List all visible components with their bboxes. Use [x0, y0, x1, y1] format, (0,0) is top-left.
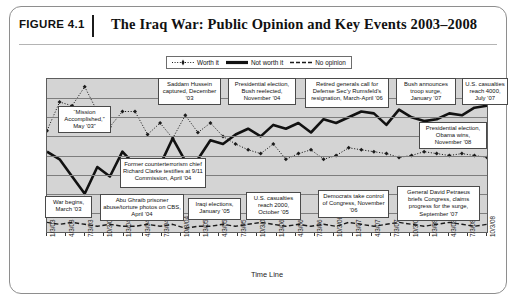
- x-tick-label: 4/3/05: [221, 219, 228, 237]
- x-tick-mark: [256, 233, 257, 236]
- page-title: The Iraq War: Public Opinion and Key Eve…: [111, 16, 477, 33]
- gridline: [47, 117, 487, 118]
- chart-legend: Worth it Not worth it No opinion: [166, 56, 352, 69]
- x-tick-mark: [142, 233, 143, 236]
- x-tick-mark: [409, 233, 410, 236]
- x-tick-mark: [467, 233, 468, 236]
- x-tick-label: 4/3/07: [374, 219, 381, 237]
- x-tick-mark: [276, 233, 277, 236]
- x-tick-label: 7/3/04: [163, 219, 170, 237]
- x-tick-mark: [314, 233, 315, 236]
- figure-screenshot: FIGURE 4.1 The Iraq War: Public Opinion …: [0, 0, 516, 301]
- header-rule: [19, 44, 497, 45]
- x-tick-mark: [429, 233, 430, 236]
- x-tick-mark: [161, 233, 162, 236]
- series-marker: [422, 150, 426, 154]
- annotation-iraqi-elections: Iraqi elections, January ’05: [188, 198, 241, 220]
- x-tick-label: 1/3/03: [49, 219, 56, 237]
- x-tick-mark: [65, 233, 66, 236]
- annotation-casualties-2000: U.S. casualties reach 2000, October ’05: [246, 192, 301, 220]
- x-tick-mark: [199, 233, 200, 236]
- x-tick-label: 4/3/08: [450, 219, 457, 237]
- series-marker: [246, 148, 250, 152]
- legend-swatch-dashed: [290, 59, 312, 66]
- annotation-rumsfeld-resignation: Retired generals call for Defense Sec’y …: [305, 78, 389, 108]
- figure-header: FIGURE 4.1 The Iraq War: Public Opinion …: [19, 14, 497, 42]
- x-tick-label: 4/3/04: [144, 219, 151, 237]
- series-marker: [359, 148, 363, 152]
- x-tick-mark: [103, 233, 104, 236]
- series-marker: [372, 150, 376, 154]
- x-tick-mark: [237, 233, 238, 236]
- x-tick-label: 7/3/08: [469, 219, 476, 237]
- x-tick-label: 7/3/03: [87, 219, 94, 237]
- series-marker: [347, 146, 351, 150]
- annotation-abu-ghraib: Abu Ghraib prisoner abuse/torture photos…: [100, 194, 184, 221]
- x-tick-label: 1/3/08: [431, 219, 438, 237]
- annotation-troop-surge: Bush announces troop surge, January ’07: [396, 78, 456, 105]
- series-marker: [133, 110, 137, 114]
- x-tick-mark: [218, 233, 219, 236]
- x-tick-label: 1/3/07: [355, 219, 362, 237]
- x-tick-mark: [333, 233, 334, 236]
- x-tick-mark: [295, 233, 296, 236]
- header-divider: [92, 15, 94, 37]
- annotation-mission-accomplished: “Mission Accomplished,” May ’03”: [58, 106, 111, 133]
- series-marker: [58, 100, 62, 104]
- x-tick-label: 7/3/07: [393, 219, 400, 237]
- x-tick-label: 7/3/05: [240, 219, 247, 237]
- x-tick-label: 10/3/06: [336, 216, 343, 237]
- legend-swatch-dotted-marker: [172, 59, 194, 66]
- legend-item-not-worth-it: Not worth it: [226, 59, 283, 66]
- x-tick-mark: [46, 233, 47, 236]
- x-axis-label: Time Line: [46, 270, 488, 279]
- annotation-presidential-election-2004: Presidential election, Bush reelected, N…: [228, 78, 296, 105]
- legend-swatch-thick-solid: [226, 59, 248, 66]
- legend-item-worth-it: Worth it: [172, 59, 219, 66]
- gridline: [47, 156, 487, 157]
- x-tick-label: 4/3/06: [297, 219, 304, 237]
- x-tick-mark: [390, 233, 391, 236]
- annotation-casualties-4000: U.S. casualties reach 4000, July ’07: [462, 78, 508, 105]
- x-tick-label: 1/3/04: [125, 219, 132, 237]
- x-tick-label: 4/3/03: [68, 219, 75, 237]
- x-tick-mark: [123, 233, 124, 236]
- legend-label-no-opinion: No opinion: [315, 59, 346, 66]
- y-axis-ticks: 01020304050607080: [0, 0, 46, 301]
- x-tick-label: 7/3/06: [316, 219, 323, 237]
- x-tick-mark: [352, 233, 353, 236]
- x-tick-label: 1/3/06: [278, 219, 285, 237]
- series-line-not-worth-it: [47, 106, 487, 194]
- annotation-obama-wins: Presidential election, Obama wins, Novem…: [419, 122, 487, 149]
- annotation-war-begins: War begins, March ’03: [45, 196, 92, 218]
- gridline: [47, 175, 487, 176]
- legend-label-not-worth-it: Not worth it: [251, 59, 283, 66]
- series-marker: [234, 142, 238, 146]
- x-tick-mark: [448, 233, 449, 236]
- annotation-democrats-congress: Democrats take control of Congress, Nove…: [318, 190, 389, 218]
- x-tick-mark: [486, 233, 487, 236]
- legend-label-worth-it: Worth it: [197, 59, 219, 66]
- annotation-richard-clarke: Former counterterrorism chief Richard Cl…: [120, 158, 206, 188]
- x-tick-mark: [84, 233, 85, 236]
- annotation-saddam-captured: Saddam Hussein captured, December ’03: [158, 78, 221, 105]
- x-tick-mark: [180, 233, 181, 236]
- x-tick-label: 10/3/08: [489, 216, 496, 237]
- x-tick-mark: [371, 233, 372, 236]
- series-marker: [47, 129, 49, 133]
- legend-item-no-opinion: No opinion: [290, 59, 346, 66]
- series-line-no-opinion: [47, 222, 487, 228]
- x-tick-label: 1/3/05: [202, 219, 209, 237]
- annotation-petraeus-briefs: General David Petraeus briefs Congress, …: [397, 186, 480, 221]
